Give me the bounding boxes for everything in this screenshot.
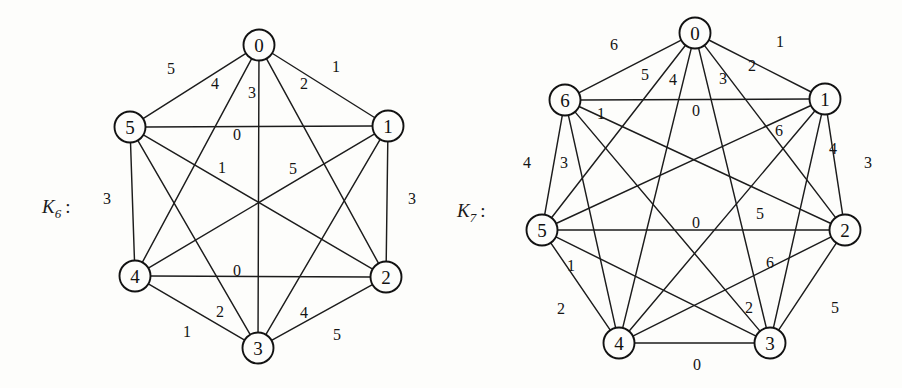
edge-label-6-4: 3 — [560, 154, 568, 171]
node-label-2: 2 — [840, 220, 850, 241]
edge-6-2 — [579, 107, 831, 224]
edge-4-3 — [148, 284, 244, 340]
edge-label-5-3: 1 — [567, 257, 575, 274]
edge-label-0-5: 5 — [641, 66, 649, 83]
node-label-1: 1 — [820, 89, 830, 110]
edge-0-5 — [143, 53, 246, 118]
node-group-k7: 0123456 — [527, 18, 861, 359]
edge-label-0-1: 1 — [332, 58, 340, 75]
edge-label-4-3: 1 — [183, 323, 191, 340]
edge-0-1 — [272, 53, 375, 118]
edge-label-1-3: 4 — [829, 140, 837, 157]
edge-label-6-5: 4 — [523, 154, 531, 171]
edge-label-5-2: 0 — [692, 214, 700, 231]
edge-label-5-2: 1 — [218, 159, 226, 176]
edge-group-k6 — [131, 53, 388, 340]
edge-1-3 — [266, 139, 380, 334]
edge-5-4 — [131, 142, 135, 260]
edge-label-1-2: 3 — [408, 190, 416, 207]
figure-canvas: K6: K7: 54321015330214501234565432101643… — [0, 0, 902, 388]
edge-2-3 — [272, 285, 373, 341]
edge-label-6-2: 1 — [597, 105, 605, 122]
edge-label-5-4: 2 — [557, 300, 565, 317]
edge-0-4 — [142, 59, 251, 263]
edge-label-1-2: 3 — [864, 154, 872, 171]
edge-label-4-2: 0 — [233, 262, 241, 279]
edge-label-5-4: 3 — [103, 190, 111, 207]
edge-label-6-1: 0 — [692, 102, 700, 119]
edge-label-0-3: 3 — [719, 70, 727, 87]
edge-5-3 — [138, 140, 250, 334]
edge-6-4 — [568, 115, 615, 328]
node-label-0: 0 — [254, 35, 264, 56]
edge-label-0-3: 3 — [248, 84, 256, 101]
node-label-3: 3 — [765, 333, 775, 354]
edge-2-4 — [633, 237, 831, 336]
edge-label-0-4: 4 — [669, 71, 677, 88]
edge-label-2-4: 6 — [766, 254, 774, 271]
edge-1-2 — [386, 142, 388, 262]
edge-1-5 — [556, 106, 811, 224]
edge-label-0-6: 6 — [610, 36, 618, 53]
node-label-1: 1 — [383, 116, 393, 137]
node-label-4: 4 — [130, 266, 140, 287]
edge-label-2-3: 5 — [333, 326, 341, 343]
edge-label-6-3: 2 — [745, 299, 753, 316]
edge-0-3 — [258, 61, 259, 333]
edge-1-2 — [827, 114, 842, 214]
edge-label-5-1: 0 — [233, 126, 241, 143]
edge-group-k7 — [545, 40, 843, 343]
complete-graphs-svg: 5432101533021450123456543210164334501622… — [0, 0, 902, 388]
node-label-5: 5 — [125, 117, 135, 138]
edge-4-2 — [151, 276, 371, 277]
node-label-2: 2 — [381, 267, 391, 288]
edge-label-4-1: 5 — [289, 160, 297, 177]
node-label-0: 0 — [690, 23, 700, 44]
edge-2-3 — [779, 243, 837, 330]
edge-0-6 — [579, 40, 681, 93]
edge-label-5-3: 2 — [216, 303, 224, 320]
edge-5-4 — [551, 243, 611, 330]
edge-label-0-4: 4 — [211, 75, 219, 92]
edge-label-1-5: 6 — [775, 122, 783, 139]
node-label-5: 5 — [537, 220, 547, 241]
edge-label-1-4: 5 — [756, 205, 764, 222]
node-label-3: 3 — [253, 338, 263, 359]
edge-0-2 — [266, 59, 378, 264]
edge-5-3 — [556, 237, 756, 336]
edge-label-2-3: 5 — [831, 299, 839, 316]
edge-label-0-2: 2 — [748, 57, 756, 74]
edge-label-0-1: 1 — [776, 33, 784, 50]
edge-5-1 — [146, 126, 373, 127]
edge-label-0-5: 5 — [167, 60, 175, 77]
edge-4-1 — [148, 134, 374, 268]
node-label-4: 4 — [614, 333, 624, 354]
edge-label-0-2: 2 — [300, 75, 308, 92]
edge-6-1 — [581, 99, 810, 100]
node-label-6: 6 — [560, 90, 570, 111]
edge-label-4-3: 0 — [693, 356, 701, 373]
edge-label-1-3: 4 — [300, 304, 308, 321]
